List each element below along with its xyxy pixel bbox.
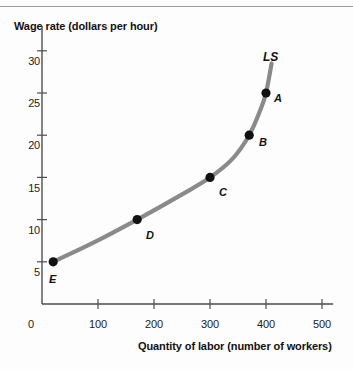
point-label-d: D bbox=[146, 229, 154, 241]
data-point-e bbox=[49, 257, 58, 266]
chart-figure: Wage rate (dollars per hour) 30 25 20 15… bbox=[0, 0, 353, 369]
labor-supply-plot bbox=[0, 0, 353, 369]
curve-label-ls: LS bbox=[263, 50, 278, 64]
x-tick-label-300: 300 bbox=[190, 318, 230, 330]
x-axis-title: Quantity of labor (number of workers) bbox=[138, 340, 332, 352]
x-tick-label-100: 100 bbox=[78, 318, 118, 330]
point-label-b: B bbox=[259, 136, 267, 148]
y-tick-label-15: 15 bbox=[14, 182, 40, 194]
point-label-a: A bbox=[274, 92, 282, 104]
x-tick-label-400: 400 bbox=[246, 318, 286, 330]
y-tick-label-30: 30 bbox=[14, 55, 40, 67]
origin-label: 0 bbox=[28, 318, 34, 330]
y-tick-label-5: 5 bbox=[14, 266, 40, 278]
point-label-e: E bbox=[49, 273, 56, 285]
data-point-d bbox=[133, 215, 142, 224]
data-points-group bbox=[49, 88, 271, 266]
point-label-c: C bbox=[219, 186, 227, 198]
x-tick-label-200: 200 bbox=[134, 318, 174, 330]
labor-supply-curve-group bbox=[53, 63, 271, 261]
data-point-a bbox=[261, 88, 270, 97]
labor-supply-curve bbox=[53, 63, 271, 261]
y-tick-label-10: 10 bbox=[14, 224, 40, 236]
x-tick-label-500: 500 bbox=[302, 318, 342, 330]
y-tick-label-20: 20 bbox=[14, 139, 40, 151]
y-tick-label-25: 25 bbox=[14, 97, 40, 109]
data-point-b bbox=[245, 131, 254, 140]
axes-group bbox=[37, 26, 333, 309]
data-point-c bbox=[205, 173, 214, 182]
